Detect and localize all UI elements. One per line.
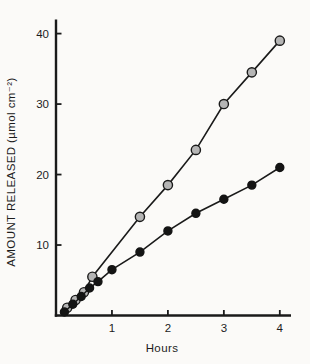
plot-area: 123410203040: [36, 20, 291, 334]
series-line: [64, 168, 279, 312]
data-point-marker: [275, 36, 284, 45]
series-open-gray-circles: [63, 36, 285, 312]
data-point-marker: [219, 99, 228, 108]
data-point-marker: [192, 209, 200, 217]
x-tick-label: 4: [277, 322, 284, 334]
data-point-marker: [94, 278, 102, 286]
data-point-marker: [248, 181, 256, 189]
data-point-marker: [191, 145, 200, 154]
data-point-marker: [135, 212, 144, 221]
x-tick-label: 1: [109, 322, 115, 334]
x-tick-label: 2: [165, 322, 171, 334]
data-point-marker: [69, 300, 77, 308]
y-tick-label: 40: [36, 28, 49, 40]
data-point-marker: [136, 248, 144, 256]
y-tick-label: 20: [36, 169, 49, 181]
x-tick-label: 3: [221, 322, 227, 334]
data-point-marker: [108, 266, 116, 274]
series-line: [67, 41, 280, 308]
data-point-marker: [247, 68, 256, 77]
data-point-marker: [60, 308, 68, 316]
release-vs-time-chart: 123410203040 AMOUNT RELEASED (µmol cm⁻²)…: [0, 0, 310, 364]
data-point-marker: [77, 292, 85, 300]
x-axis-label: Hours: [146, 342, 179, 354]
y-tick-label: 10: [36, 239, 49, 251]
figure: 123410203040 AMOUNT RELEASED (µmol cm⁻²)…: [0, 0, 310, 364]
data-point-marker: [163, 181, 172, 190]
y-tick-label: 30: [36, 98, 49, 110]
data-point-marker: [164, 227, 172, 235]
data-point-marker: [220, 195, 228, 203]
y-axis-label: AMOUNT RELEASED (µmol cm⁻²): [5, 77, 17, 266]
data-point-marker: [86, 284, 94, 292]
data-point-marker: [276, 164, 284, 172]
